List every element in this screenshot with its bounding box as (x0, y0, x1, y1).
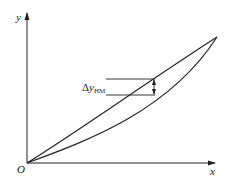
delta-subscript: HM (94, 87, 105, 95)
origin-label: O (17, 164, 25, 175)
delta-y-hm-label: ΔyHM (82, 82, 105, 95)
y-axis-label: y (16, 12, 21, 23)
hysteresis-diagram: y x O ΔyHM (0, 0, 230, 189)
x-axis-label: x (210, 166, 215, 177)
upper-curve (27, 37, 217, 163)
diagram-graphics (0, 0, 230, 189)
